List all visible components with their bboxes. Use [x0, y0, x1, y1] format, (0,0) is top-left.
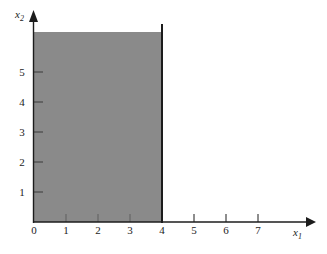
- x-tick-label-2: 2: [92, 224, 104, 236]
- x-tick-label-0: 0: [28, 224, 40, 236]
- y-axis-label: x2: [15, 8, 24, 23]
- y-tick-label-3: 3: [16, 126, 28, 138]
- x-axis-label: x1: [293, 226, 302, 241]
- plot-canvas: [0, 0, 327, 254]
- y-tick-label-2: 2: [16, 156, 28, 168]
- x-tick-label-5: 5: [188, 224, 200, 236]
- chart-figure: 0 1 2 3 4 5 6 7 1 2 3 4 5 x1 x2: [0, 0, 327, 254]
- y-axis-label-subscript: 2: [20, 14, 24, 23]
- x-tick-label-3: 3: [124, 224, 136, 236]
- x-tick-label-7: 7: [252, 224, 264, 236]
- y-tick-label-5: 5: [16, 66, 28, 78]
- x-axis-arrowhead: [306, 217, 316, 227]
- x-tick-label-1: 1: [60, 224, 72, 236]
- x-tick-label-6: 6: [220, 224, 232, 236]
- x-axis-ticks: [194, 214, 258, 222]
- y-tick-label-1: 1: [16, 186, 28, 198]
- y-tick-label-4: 4: [16, 96, 28, 108]
- x-axis-label-subscript: 1: [298, 232, 302, 241]
- shaded-feasible-region: [34, 32, 162, 222]
- x-tick-label-4: 4: [156, 224, 168, 236]
- y-axis-arrowhead: [29, 10, 38, 22]
